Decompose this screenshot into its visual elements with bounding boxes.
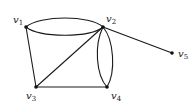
vertex-v3 — [34, 85, 38, 89]
edge-v1-v3 — [26, 27, 36, 87]
edge-v2-v4-right — [103, 27, 113, 87]
vertex-v4 — [105, 85, 109, 89]
label-v5: v5 — [178, 48, 188, 61]
edge-v2-v5 — [103, 27, 172, 53]
vertex-v5 — [170, 51, 174, 55]
label-v1: v1 — [13, 14, 23, 27]
edge-v3-v2 — [36, 27, 103, 87]
edge-v1-v2-upper — [26, 18, 103, 27]
label-v4: v4 — [111, 90, 122, 103]
edge-v2-v4-left — [97, 27, 107, 87]
edge-v1-v2-lower — [26, 27, 103, 35]
graph-diagram: v1 v2 v3 v4 v5 — [0, 0, 190, 110]
vertex-v2 — [101, 25, 105, 29]
label-v2: v2 — [106, 13, 116, 26]
label-v3: v3 — [26, 90, 36, 103]
vertex-v1 — [24, 25, 28, 29]
